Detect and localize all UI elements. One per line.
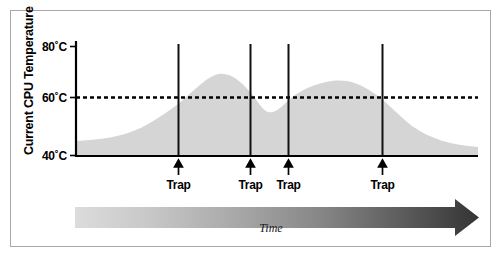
trap-marker-3: Trap (276, 160, 300, 192)
trap-marker-2: Trap (238, 160, 262, 192)
arrow-up-icon (379, 160, 387, 175)
temperature-area-series (76, 74, 478, 156)
arrow-up-icon (247, 160, 255, 175)
trap-label-2: Trap (238, 178, 262, 192)
arrow-up-icon (175, 160, 183, 175)
trap-label-4: Trap (370, 178, 394, 192)
y-axis-label: Current CPU Temperature (22, 6, 36, 155)
trap-marker-1: Trap (166, 160, 190, 192)
trap-marker-4: Trap (370, 160, 394, 192)
y-tick-label-80: 80˚C (42, 40, 67, 54)
cpu-temperature-figure: Current CPU Temperature 80˚C 60˚C 40˚C T… (0, 0, 502, 257)
trap-label-1: Trap (166, 178, 190, 192)
y-tick-label-60: 60˚C (42, 91, 67, 105)
time-axis-arrow: Time (75, 199, 479, 236)
chart-canvas: Current CPU Temperature 80˚C 60˚C 40˚C T… (0, 0, 502, 257)
temperature-curve-fill (76, 74, 478, 156)
y-tick-label-40: 40˚C (42, 149, 67, 163)
trap-label-3: Trap (276, 178, 300, 192)
y-axis-label-text: Current CPU Temperature (22, 6, 36, 155)
time-axis-label: Time (259, 221, 283, 235)
arrow-up-icon (285, 160, 293, 175)
